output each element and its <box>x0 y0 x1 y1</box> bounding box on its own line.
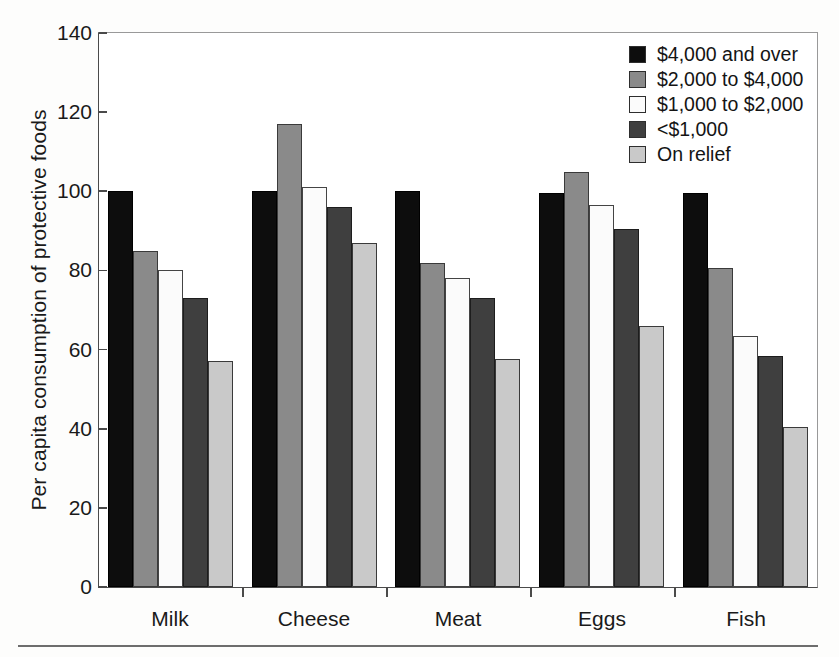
chart-legend: $4,000 and over$2,000 to $4,000$1,000 to… <box>629 44 803 165</box>
bar[interactable] <box>589 205 614 587</box>
y-axis-tick: 40 <box>69 417 99 441</box>
bar[interactable] <box>683 193 708 587</box>
chart-figure: Per capita consumption of protective foo… <box>0 0 839 657</box>
y-axis-tick: 60 <box>69 338 99 362</box>
x-axis-tick: Milk <box>98 588 242 644</box>
legend-swatch-icon <box>629 96 646 113</box>
bar-group <box>243 33 387 587</box>
x-axis: MilkCheeseMeatEggsFish <box>98 588 818 644</box>
bar[interactable] <box>302 187 327 587</box>
y-axis-tick: 0 <box>80 575 99 599</box>
y-axis-tick-label: 40 <box>69 417 99 441</box>
bar[interactable] <box>108 191 133 587</box>
legend-swatch-icon <box>629 71 646 88</box>
bar[interactable] <box>420 263 445 587</box>
bar[interactable] <box>708 268 733 587</box>
bar[interactable] <box>495 359 520 587</box>
x-axis-tick-label: Cheese <box>278 607 350 644</box>
y-axis-tick: 140 <box>57 21 99 45</box>
y-axis-tick: 80 <box>69 258 99 282</box>
x-axis-tick: Cheese <box>242 588 386 644</box>
y-axis-tick-label: 0 <box>80 575 99 599</box>
bar[interactable] <box>352 243 377 587</box>
legend-item[interactable]: On relief <box>629 144 803 165</box>
legend-swatch-icon <box>629 46 646 63</box>
bar[interactable] <box>564 172 589 588</box>
x-axis-tick-mark <box>674 588 676 597</box>
legend-item-label: $2,000 to $4,000 <box>657 68 803 91</box>
bar[interactable] <box>395 191 420 587</box>
x-axis-tick-label: Meat <box>435 607 482 644</box>
legend-item[interactable]: <$1,000 <box>629 119 803 140</box>
y-axis-tick-label: 60 <box>69 338 99 362</box>
y-axis-tick: 120 <box>57 100 99 124</box>
y-axis-title: Per capita consumption of protective foo… <box>22 10 56 610</box>
y-axis-tick-label: 140 <box>57 21 99 45</box>
x-axis-tick: Meat <box>386 588 530 644</box>
y-axis-tick-label: 80 <box>69 258 99 282</box>
y-axis-tick-label: 100 <box>57 179 99 203</box>
x-axis-tick-label: Fish <box>726 607 766 644</box>
bar[interactable] <box>252 191 277 587</box>
bar[interactable] <box>277 124 302 587</box>
y-axis-tick-label: 120 <box>57 100 99 124</box>
bar[interactable] <box>327 207 352 587</box>
legend-item-label: $4,000 and over <box>657 43 798 66</box>
bar[interactable] <box>639 326 664 587</box>
legend-item[interactable]: $4,000 and over <box>629 44 803 65</box>
bar[interactable] <box>445 278 470 587</box>
bar-group <box>99 33 243 587</box>
legend-item[interactable]: $1,000 to $2,000 <box>629 94 803 115</box>
bar[interactable] <box>133 251 158 587</box>
bar[interactable] <box>539 193 564 587</box>
x-axis-tick: Fish <box>674 588 818 644</box>
legend-item-label: <$1,000 <box>657 118 728 141</box>
y-axis-tick: 20 <box>69 496 99 520</box>
bar[interactable] <box>470 298 495 587</box>
bottom-divider <box>18 645 818 647</box>
legend-item-label: $1,000 to $2,000 <box>657 93 803 116</box>
bar[interactable] <box>183 298 208 587</box>
bar-group <box>386 33 530 587</box>
bar[interactable] <box>208 361 233 587</box>
x-axis-tick: Eggs <box>530 588 674 644</box>
x-axis-tick-mark <box>530 588 532 597</box>
x-axis-tick-mark <box>386 588 388 597</box>
x-axis-tick-label: Eggs <box>578 607 626 644</box>
bar[interactable] <box>733 336 758 587</box>
legend-swatch-icon <box>629 121 646 138</box>
legend-item[interactable]: $2,000 to $4,000 <box>629 69 803 90</box>
x-axis-tick-label: Milk <box>151 607 188 644</box>
legend-item-label: On relief <box>657 143 731 166</box>
bar[interactable] <box>158 270 183 587</box>
bar[interactable] <box>614 229 639 587</box>
y-axis-tick-label: 20 <box>69 496 99 520</box>
bar[interactable] <box>783 427 808 587</box>
y-axis-tick: 100 <box>57 179 99 203</box>
legend-swatch-icon <box>629 146 646 163</box>
x-axis-tick-mark <box>242 588 244 597</box>
bar[interactable] <box>758 356 783 587</box>
